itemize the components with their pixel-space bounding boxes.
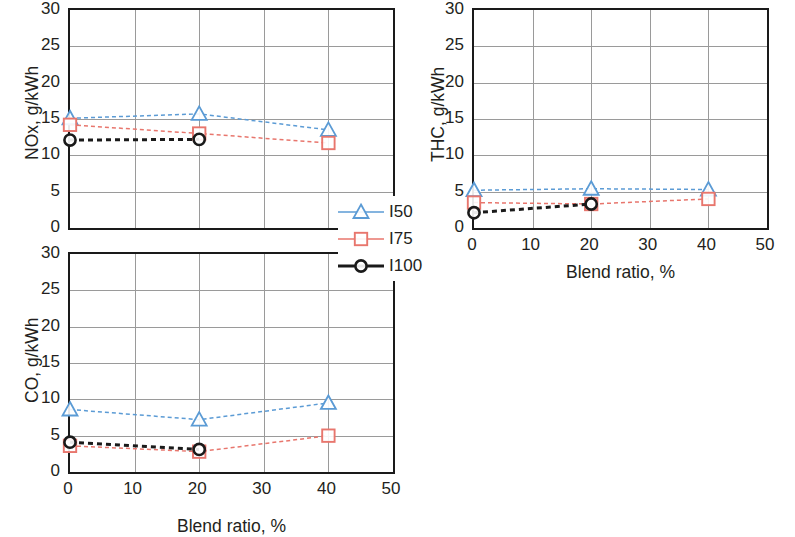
x-tick-label: 30	[242, 480, 282, 497]
series-layer-thc	[474, 10, 767, 228]
data-point-circle-open	[355, 260, 366, 271]
data-point-circle-open	[194, 134, 205, 145]
legend-item-i75[interactable]: I75	[338, 225, 448, 252]
legend-item-i50[interactable]: I50	[338, 198, 448, 225]
y-tick-label: 0	[24, 218, 60, 235]
y-tick-label: 5	[24, 182, 60, 199]
x-axis-label-co: Blend ratio, %	[68, 516, 395, 537]
data-point-square-open	[322, 429, 334, 441]
legend-key-circle-icon	[338, 254, 384, 278]
data-svg	[474, 10, 767, 228]
legend-label-i75: I75	[389, 229, 413, 249]
y-tick-label: 5	[24, 426, 60, 443]
y-axis-label-co: CO, g/kWh	[22, 317, 43, 403]
series-line-i100	[70, 139, 199, 140]
legend-key-triangle-icon	[338, 200, 384, 224]
y-tick-label: 25	[428, 36, 464, 53]
x-tick-label: 50	[371, 480, 411, 497]
data-point-triangle-open	[63, 402, 78, 416]
legend: I50 I75 I100	[338, 196, 448, 281]
x-tick-label: 20	[177, 480, 217, 497]
x-tick-label: 40	[306, 480, 346, 497]
legend-label-i100: I100	[389, 256, 422, 276]
y-tick-label: 0	[24, 462, 60, 479]
legend-item-i100[interactable]: I100	[338, 252, 448, 279]
data-point-triangle-open	[192, 106, 207, 120]
data-point-circle-open	[64, 437, 75, 448]
y-axis-label-nox: NOx, g/kWh	[22, 66, 43, 160]
x-axis-label-thc: Blend ratio, %	[472, 262, 769, 283]
series-line-i100	[474, 204, 591, 213]
y-tick-label: 25	[24, 280, 60, 297]
chart-panel-thc: 051015202530 01020304050 THC, g/kWh Blen…	[420, 0, 795, 300]
x-tick-label: 10	[113, 480, 153, 497]
legend-key-square-icon	[338, 227, 384, 251]
series-layer-co	[70, 254, 393, 472]
x-tick-label: 40	[686, 236, 726, 253]
data-point-circle-open	[194, 444, 205, 455]
x-tick-label: 30	[628, 236, 668, 253]
x-tick-label: 20	[569, 236, 609, 253]
y-tick-label: 30	[24, 244, 60, 261]
data-point-triangle-open	[584, 181, 599, 195]
x-tick-label: 0	[452, 236, 492, 253]
data-point-triangle-open	[467, 183, 482, 197]
data-point-circle-open	[468, 207, 479, 218]
data-point-square-open	[702, 193, 714, 205]
data-point-square-open	[64, 119, 76, 131]
data-point-circle-open	[64, 134, 75, 145]
legend-label-i50: I50	[389, 202, 413, 222]
y-axis-label-thc: THC, g/kWh	[428, 67, 449, 162]
plot-area-thc	[472, 8, 769, 230]
plot-area-co	[68, 252, 395, 474]
data-point-square-open	[355, 232, 367, 244]
y-tick-label: 25	[24, 36, 60, 53]
x-tick-label: 10	[511, 236, 551, 253]
data-point-triangle-open	[321, 395, 336, 409]
x-tick-label: 0	[48, 480, 88, 497]
data-point-square-open	[322, 137, 334, 149]
data-point-circle-open	[586, 198, 597, 209]
y-tick-label: 30	[428, 0, 464, 17]
x-tick-label: 50	[745, 236, 785, 253]
chart-panel-co: 051015202530 01020304050 CO, g/kWh Blend…	[0, 248, 420, 532]
y-tick-label: 30	[24, 0, 60, 17]
data-svg	[70, 254, 393, 472]
